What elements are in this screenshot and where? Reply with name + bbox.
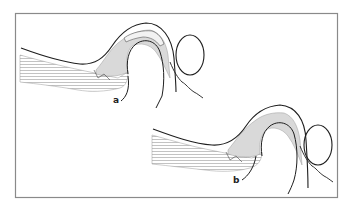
- label-b: b: [233, 175, 240, 185]
- figure-a-circle: [176, 35, 204, 75]
- diagram-frame: a b: [0, 0, 355, 209]
- figure-a: a: [20, 23, 204, 108]
- figure-b-circle: [304, 125, 332, 165]
- panel-border: [16, 14, 338, 198]
- label-a: a: [113, 95, 119, 105]
- figure-b: b: [152, 105, 333, 194]
- diagram-canvas: a b: [0, 0, 355, 209]
